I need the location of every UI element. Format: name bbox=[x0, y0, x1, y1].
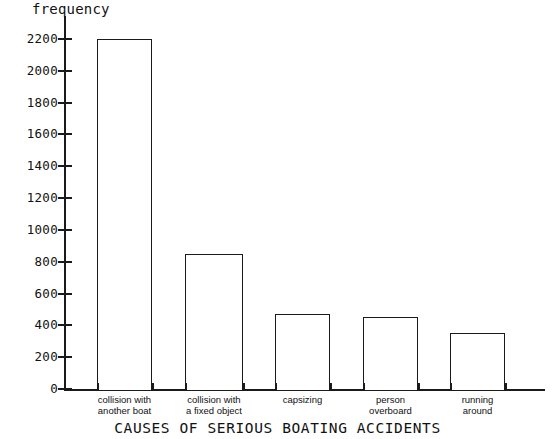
y-axis-tick-label: 1200 bbox=[0, 190, 58, 205]
y-axis-tick bbox=[58, 229, 72, 231]
y-axis-tick-label: 1400 bbox=[0, 158, 58, 173]
y-axis-tick bbox=[58, 324, 72, 326]
y-axis-tick-label: 1800 bbox=[0, 95, 58, 110]
y-axis-tick-label: 0 bbox=[0, 381, 58, 396]
y-axis-tick bbox=[58, 261, 72, 263]
plot-area: 0200400600800100012001400160018002000220… bbox=[64, 16, 545, 391]
y-axis-tick bbox=[58, 293, 72, 295]
bar bbox=[185, 254, 243, 391]
y-axis-tick bbox=[58, 356, 72, 358]
y-axis-tick-label: 2000 bbox=[0, 63, 58, 78]
y-axis-tick-label: 1000 bbox=[0, 222, 58, 237]
y-axis-title: frequency bbox=[32, 1, 110, 17]
x-axis-tick bbox=[275, 383, 277, 391]
x-axis-tick bbox=[505, 383, 507, 391]
x-axis-category-label: person overboard bbox=[341, 395, 441, 416]
y-axis-tick-label: 800 bbox=[0, 254, 58, 269]
y-axis-tick-label: 400 bbox=[0, 317, 58, 332]
y-axis-tick bbox=[58, 388, 72, 390]
x-axis-category-label: capsizing bbox=[253, 395, 353, 406]
y-axis-tick bbox=[58, 197, 72, 199]
x-axis-category-label: running around bbox=[428, 395, 528, 416]
x-axis-tick bbox=[185, 383, 187, 391]
y-axis-tick bbox=[58, 70, 72, 72]
y-axis-tick-label: 2200 bbox=[0, 31, 58, 46]
x-axis-category-label: collision with a fixed object bbox=[164, 395, 264, 416]
y-axis-tick-labels: 0200400600800100012001400160018002000220… bbox=[0, 16, 58, 391]
y-axis-tick bbox=[58, 102, 72, 104]
y-axis-tick bbox=[58, 165, 72, 167]
y-axis-tick bbox=[58, 133, 72, 135]
y-axis-tick-label: 200 bbox=[0, 349, 58, 364]
chart-figure: frequency 020040060080010001200140016001… bbox=[0, 0, 555, 439]
y-axis-tick-label: 600 bbox=[0, 286, 58, 301]
x-axis-tick bbox=[363, 383, 365, 391]
x-axis-tick bbox=[243, 383, 245, 391]
bar bbox=[97, 39, 152, 391]
y-axis-tick bbox=[58, 38, 72, 40]
x-axis-title: CAUSES OF SERIOUS BOATING ACCIDENTS bbox=[0, 420, 555, 436]
x-axis-tick bbox=[450, 383, 452, 391]
x-axis-tick bbox=[418, 383, 420, 391]
x-axis-tick bbox=[330, 383, 332, 391]
y-axis-tick-label: 1600 bbox=[0, 126, 58, 141]
bar bbox=[363, 317, 418, 391]
bar bbox=[275, 314, 330, 391]
x-axis-tick bbox=[97, 383, 99, 391]
y-axis-line bbox=[64, 16, 66, 391]
x-axis-tick bbox=[152, 383, 154, 391]
bar bbox=[450, 333, 505, 391]
x-axis-category-label: collision with another boat bbox=[75, 395, 175, 416]
